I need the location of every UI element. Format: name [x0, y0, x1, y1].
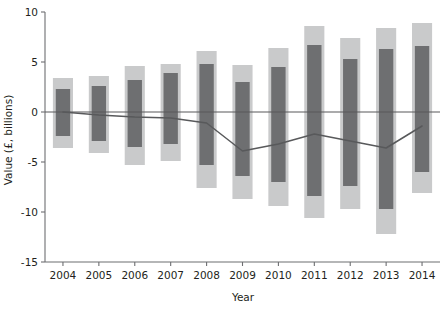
y-tick-label: -15 [21, 256, 38, 268]
bar-range-chart: 1050-5-10-15 200420052006200720082009201… [0, 0, 447, 311]
y-tick-label: 0 [31, 106, 38, 118]
x-tick-label: 2005 [85, 269, 112, 281]
x-tick-label: 2010 [265, 269, 292, 281]
y-tick-label: -10 [21, 206, 38, 218]
bar-segment [343, 59, 357, 186]
y-axis: 1050-5-10-15 [21, 6, 45, 268]
bar-segment [164, 73, 178, 144]
bar-segment [92, 86, 106, 141]
bar-segment [199, 64, 213, 165]
x-tick-labels: 2004200520062007200820092010201120122013… [50, 269, 436, 281]
bar-segment [379, 49, 393, 209]
y-axis-title: Value (£, billions) [2, 95, 14, 186]
x-tick-label: 2007 [157, 269, 184, 281]
x-axis [45, 262, 440, 266]
x-tick-label: 2011 [301, 269, 328, 281]
bar-segment [128, 80, 142, 147]
x-tick-label: 2012 [337, 269, 364, 281]
x-tick-label: 2008 [193, 269, 220, 281]
x-tick-label: 2014 [409, 269, 436, 281]
x-tick-label: 2013 [373, 269, 400, 281]
bar-segment [271, 67, 285, 182]
x-tick-label: 2006 [121, 269, 148, 281]
x-axis-title: Year [231, 291, 255, 303]
bar-segment [307, 45, 321, 196]
x-tick-label: 2009 [229, 269, 256, 281]
x-tick-label: 2004 [50, 269, 77, 281]
y-tick-label: 5 [31, 56, 38, 68]
y-tick-label: 10 [25, 6, 38, 18]
bar-segment [235, 82, 249, 176]
bar-segment [415, 46, 429, 172]
chart-container: 1050-5-10-15 200420052006200720082009201… [0, 0, 447, 311]
y-tick-label: -5 [28, 156, 38, 168]
